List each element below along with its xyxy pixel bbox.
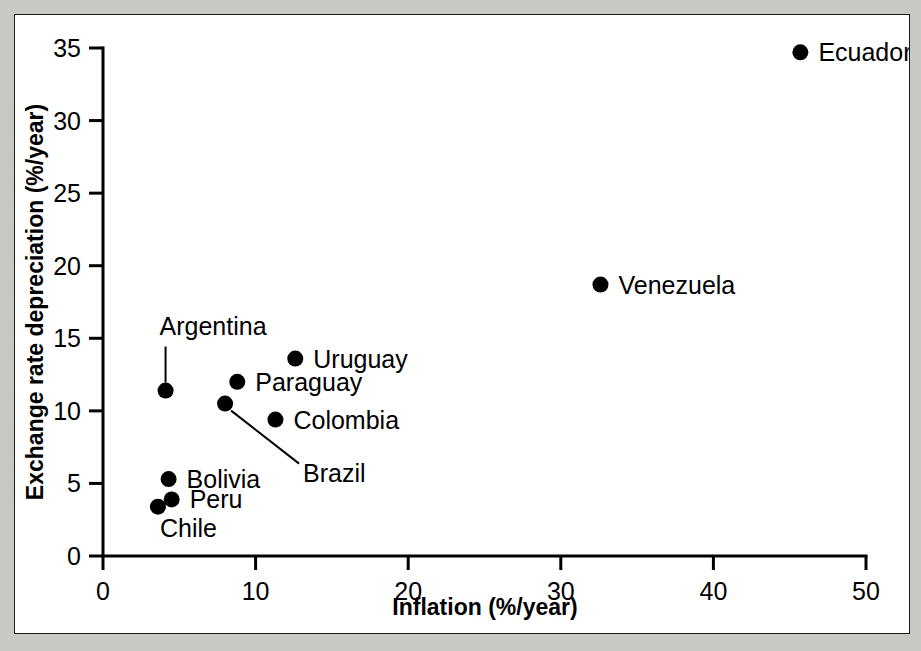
data-point-uruguay bbox=[287, 351, 303, 367]
y-axis-title: Exchange rate depreciation (%/year) bbox=[22, 104, 48, 500]
data-label-colombia: Colombia bbox=[293, 406, 399, 434]
data-point-bolivia bbox=[161, 471, 177, 487]
data-point-labels: EcuadorVenezuelaUruguayParaguayColombiaB… bbox=[160, 38, 909, 541]
x-axis-tick-marks bbox=[103, 556, 866, 570]
y-tick-label: 0 bbox=[67, 542, 81, 570]
data-point-peru bbox=[164, 491, 180, 507]
data-label-ecuador: Ecuador bbox=[818, 38, 909, 66]
y-tick-label: 30 bbox=[53, 107, 81, 135]
leader-line-brazil bbox=[231, 411, 299, 464]
y-tick-label: 5 bbox=[67, 469, 81, 497]
data-label-brazil: Brazil bbox=[303, 459, 366, 487]
data-label-peru: Peru bbox=[190, 485, 243, 513]
x-tick-label: 0 bbox=[96, 577, 110, 605]
y-axis-tick-labels: 05101520253035 bbox=[53, 34, 81, 570]
data-point-brazil bbox=[217, 396, 233, 412]
data-point-ecuador bbox=[792, 44, 808, 60]
data-point-venezuela bbox=[592, 277, 608, 293]
data-point-chile bbox=[150, 499, 166, 515]
data-point-paraguay bbox=[229, 374, 245, 390]
data-point-argentina bbox=[158, 383, 174, 399]
data-label-paraguay: Paraguay bbox=[255, 368, 363, 396]
x-tick-label: 40 bbox=[699, 577, 727, 605]
y-tick-label: 20 bbox=[53, 252, 81, 280]
scatter-plot: 05101520253035 01020304050 EcuadorVenezu… bbox=[15, 15, 909, 633]
y-tick-label: 25 bbox=[53, 179, 81, 207]
x-tick-label: 50 bbox=[852, 577, 880, 605]
x-axis-title: Inflation (%/year) bbox=[392, 594, 577, 620]
chart-figure: 05101520253035 01020304050 EcuadorVenezu… bbox=[14, 14, 910, 634]
y-tick-label: 15 bbox=[53, 324, 81, 352]
data-label-chile: Chile bbox=[160, 514, 217, 542]
y-tick-label: 35 bbox=[53, 34, 81, 62]
y-tick-label: 10 bbox=[53, 397, 81, 425]
data-point-colombia bbox=[267, 412, 283, 428]
y-axis-tick-marks bbox=[89, 48, 103, 556]
data-label-argentina: Argentina bbox=[160, 312, 267, 340]
data-label-venezuela: Venezuela bbox=[618, 271, 735, 299]
x-tick-label: 10 bbox=[242, 577, 270, 605]
